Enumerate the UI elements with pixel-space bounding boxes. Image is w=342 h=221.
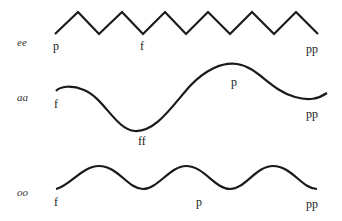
sine-contour	[56, 166, 317, 189]
dynamic-marking: f	[54, 195, 58, 209]
vowel-label-oo: oo	[17, 186, 29, 198]
dynamic-marking: pp	[306, 42, 318, 56]
vowel-label-ee: ee	[17, 36, 27, 48]
vowel-label-aa: aa	[17, 91, 29, 103]
vowel-dynamics-diagram: ee p f pp aa f ff p pp oo f p pp	[0, 0, 342, 221]
dynamic-marking: p	[231, 75, 237, 89]
dynamic-marking: pp	[306, 197, 318, 211]
dynamic-marking: f	[54, 97, 58, 111]
dynamic-marking: f	[140, 39, 144, 53]
dynamic-marking: pp	[306, 107, 318, 121]
wave-contour	[56, 64, 327, 131]
dynamic-marking: p	[53, 39, 59, 53]
dynamic-marking: p	[196, 195, 202, 209]
dynamic-marking: ff	[138, 134, 146, 148]
zigzag-contour	[55, 12, 318, 34]
